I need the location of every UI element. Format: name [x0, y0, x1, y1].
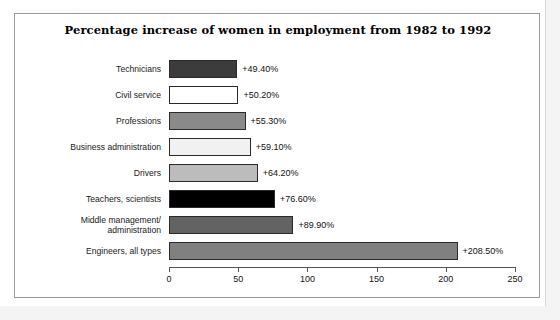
bar — [169, 138, 251, 156]
plot-area: Technicians+49.40%Civil service+50.20%Pr… — [15, 52, 541, 299]
x-axis-tick-label: 0 — [166, 274, 171, 284]
category-label: Technicians — [15, 64, 169, 74]
bar-row: Middle management/ administration+89.90% — [15, 212, 541, 238]
category-label: Middle management/ administration — [15, 215, 169, 235]
bar-value-label: +50.20% — [243, 90, 279, 100]
x-axis-tick-label: 50 — [233, 274, 243, 284]
bar-row: Engineers, all types+208.50% — [15, 238, 541, 264]
x-axis-tick — [377, 267, 378, 272]
category-label: Business administration — [15, 142, 169, 152]
bar-value-label: +208.50% — [463, 246, 504, 256]
page-edge-shading-bottom — [0, 306, 559, 320]
x-axis-tick-label: 200 — [438, 274, 453, 284]
category-label: Professions — [15, 116, 169, 126]
bar — [169, 242, 458, 260]
x-axis-tick — [169, 267, 170, 272]
bar — [169, 164, 258, 182]
x-axis-tick-label: 250 — [507, 274, 522, 284]
bar-value-label: +76.60% — [280, 194, 316, 204]
chart-title: Percentage increase of women in employme… — [15, 23, 541, 37]
bar-row: Business administration+59.10% — [15, 134, 541, 160]
bar-value-label: +64.20% — [263, 168, 299, 178]
x-axis-tick — [238, 267, 239, 272]
bar-wrapper: +50.20% — [169, 82, 541, 108]
bar — [169, 190, 275, 208]
bar-value-label: +59.10% — [256, 142, 292, 152]
x-axis-tick-label: 150 — [369, 274, 384, 284]
category-label: Engineers, all types — [15, 246, 169, 256]
page-edge-shading-right — [545, 0, 560, 320]
x-axis-line — [169, 267, 515, 268]
bar — [169, 112, 246, 130]
bar-row: Drivers+64.20% — [15, 160, 541, 186]
bar-wrapper: +64.20% — [169, 160, 541, 186]
bar — [169, 216, 293, 234]
bar-value-label: +55.30% — [251, 116, 287, 126]
category-label: Teachers, scientists — [15, 194, 169, 204]
chart-frame: Percentage increase of women in employme… — [14, 13, 540, 298]
bar-value-label: +49.40% — [242, 64, 278, 74]
bar-row: Professions+55.30% — [15, 108, 541, 134]
bar-wrapper: +208.50% — [169, 238, 541, 264]
bar-row: Technicians+49.40% — [15, 56, 541, 82]
x-axis-tick — [515, 267, 516, 272]
bar — [169, 86, 238, 104]
category-label: Civil service — [15, 90, 169, 100]
bar-wrapper: +89.90% — [169, 212, 541, 238]
bar-row: Teachers, scientists+76.60% — [15, 186, 541, 212]
bar-row: Civil service+50.20% — [15, 82, 541, 108]
bar — [169, 60, 237, 78]
category-label: Drivers — [15, 168, 169, 178]
bar-wrapper: +49.40% — [169, 56, 541, 82]
bar-value-label: +89.90% — [298, 220, 334, 230]
x-axis-tick — [307, 267, 308, 272]
bar-wrapper: +76.60% — [169, 186, 541, 212]
bar-wrapper: +55.30% — [169, 108, 541, 134]
x-axis-tick — [446, 267, 447, 272]
x-axis-tick-label: 100 — [300, 274, 315, 284]
bar-wrapper: +59.10% — [169, 134, 541, 160]
